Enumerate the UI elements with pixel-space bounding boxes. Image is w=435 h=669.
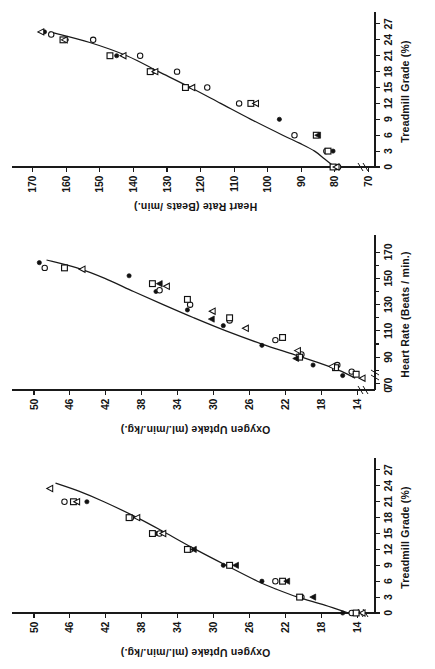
x-tick-label: 9: [382, 116, 394, 122]
data-point-open-square: [150, 531, 156, 537]
x-tick-label: 3: [382, 148, 394, 154]
y-tick-label: 34: [171, 399, 183, 411]
data-point-open-circle: [292, 133, 297, 138]
x-axis-title: Heart Rate (Beats / min.): [399, 251, 411, 377]
data-point-filled-circle: [331, 149, 335, 153]
fit-curve: [55, 483, 348, 613]
data-point-open-triangle: [295, 348, 301, 354]
data-point-open-triangle: [38, 29, 44, 35]
y-tick-label: 50: [28, 399, 40, 411]
data-point-open-square: [227, 315, 233, 321]
data-point-filled-triangle: [156, 281, 162, 287]
x-tick-label: 3: [382, 594, 394, 600]
y-tick-label: 150: [93, 176, 105, 193]
data-point-filled-circle: [341, 373, 345, 377]
x-tick-label: 6: [382, 132, 394, 138]
data-point-open-circle: [157, 288, 162, 293]
y-tick-label: 38: [135, 399, 147, 411]
data-point-filled-triangle: [208, 316, 214, 322]
y-tick-label: 100: [261, 176, 273, 193]
data-point-open-square: [107, 53, 113, 59]
x-origin-label: 0: [382, 387, 394, 393]
data-point-open-square: [185, 297, 191, 303]
y-tick-label: 26: [243, 399, 255, 411]
y-tick-label: 130: [161, 176, 173, 193]
x-tick-label: 18: [382, 66, 394, 78]
data-point-open-triangle: [163, 283, 169, 289]
x-tick-label: 24: [382, 34, 394, 46]
x-tick-label: 0: [382, 610, 394, 616]
plot-panel-2: 7090110130150170014182226303438424650Hea…: [0, 223, 435, 446]
y-tick-label: 70: [362, 176, 374, 188]
y-tick-label: 46: [63, 622, 75, 634]
data-point-open-square: [126, 515, 132, 521]
y-tick-label: 160: [60, 176, 72, 193]
x-tick-label: 27: [382, 464, 394, 476]
data-point-open-circle: [205, 85, 210, 90]
y-tick-label: 80: [328, 176, 340, 188]
data-point-open-circle: [273, 337, 278, 342]
x-tick-label: 12: [382, 97, 394, 109]
y-tick-label: 46: [63, 399, 75, 411]
plot-panel-1: 036912151821242714182226303438424650Trea…: [0, 446, 435, 669]
data-point-open-triangle: [209, 308, 215, 314]
x-tick-label: 27: [382, 18, 394, 30]
data-point-open-square: [62, 265, 68, 271]
plot-panel-3: 0369121518212427708090100110120130140150…: [0, 0, 435, 223]
y-tick-label: 42: [99, 622, 111, 634]
x-tick-label: 21: [382, 50, 394, 62]
data-point-open-circle: [90, 37, 95, 42]
y-tick-label: 42: [99, 399, 111, 411]
y-axis-title: Heart Rate (Beats /min.): [134, 201, 257, 213]
data-point-open-triangle: [189, 84, 195, 90]
data-point-filled-circle: [115, 54, 119, 58]
y-tick-label: 34: [171, 622, 183, 634]
y-tick-label: 18: [315, 622, 327, 634]
data-point-filled-circle: [260, 343, 264, 347]
y-axis-title: Oxygen Uptake (ml./min./kg.): [121, 647, 271, 659]
data-point-open-triangle: [242, 325, 248, 331]
data-point-open-square: [183, 85, 189, 91]
data-point-open-triangle: [47, 485, 53, 491]
y-tick-label: 14: [351, 399, 363, 411]
panel-oxygen-uptake-vs-treadmill-grade: 036912151821242714182226303438424650Trea…: [0, 446, 435, 669]
y-tick-label: 22: [279, 399, 291, 411]
data-point-filled-triangle: [293, 355, 299, 361]
data-point-filled-circle: [221, 563, 225, 567]
data-point-open-square: [227, 562, 233, 568]
data-point-open-circle: [137, 53, 142, 58]
data-point-filled-circle: [341, 611, 345, 615]
data-point-filled-circle: [260, 579, 264, 583]
data-point-open-square: [325, 148, 331, 154]
x-tick-label: 150: [382, 270, 394, 287]
data-point-filled-circle: [311, 363, 315, 367]
panel-heart-rate-vs-treadmill-grade: 0369121518212427708090100110120130140150…: [0, 0, 435, 223]
rotated-figure-canvas: 036912151821242714182226303438424650Trea…: [0, 0, 435, 669]
data-point-open-circle: [62, 499, 67, 504]
x-axis-title: Treadmill Grade (%): [399, 486, 411, 588]
x-tick-label: 18: [382, 512, 394, 524]
data-point-filled-circle: [185, 308, 189, 312]
y-tick-label: 140: [127, 176, 139, 193]
x-tick-label: 110: [382, 322, 394, 338]
x-tick-label: 9: [382, 562, 394, 568]
data-point-open-square: [150, 281, 156, 287]
x-tick-label: 6: [382, 578, 394, 584]
data-point-filled-circle: [85, 500, 89, 504]
data-point-filled-circle: [221, 324, 225, 328]
y-tick-label: 50: [28, 622, 40, 634]
data-point-open-circle: [273, 579, 278, 584]
y-tick-label: 110: [228, 176, 240, 192]
x-tick-label: 15: [382, 82, 394, 94]
y-tick-label: 90: [295, 176, 307, 188]
y-tick-label: 14: [351, 622, 363, 634]
data-point-filled-circle: [37, 261, 41, 265]
x-tick-label: 170: [382, 243, 394, 260]
fit-curve: [47, 260, 356, 378]
data-point-open-square: [280, 335, 286, 341]
x-tick-label: 12: [382, 543, 394, 555]
y-tick-label: 30: [207, 622, 219, 634]
data-point-open-triangle: [329, 363, 335, 369]
x-tick-label: 21: [382, 496, 394, 508]
x-tick-label: 24: [382, 480, 394, 492]
